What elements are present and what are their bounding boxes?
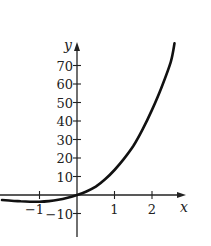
y-tick-label: 40 [56, 114, 73, 129]
y-tick-label: 10 [56, 170, 73, 185]
x-tick-label: 2 [148, 202, 156, 217]
function-curve [2, 43, 175, 201]
y-axis-arrow-icon [74, 42, 80, 51]
y-tick-label: 30 [56, 133, 73, 148]
x-axis-arrow-icon [177, 192, 186, 198]
y-tick-label: 60 [56, 77, 73, 92]
x-axis-label: x [180, 199, 188, 215]
y-tick-label: 70 [56, 59, 73, 74]
y-tick-label: 20 [56, 151, 73, 166]
y-tick-label: 50 [56, 96, 73, 111]
y-axis-label: y [63, 37, 73, 53]
y-tick-label: −10 [46, 207, 73, 222]
function-plot: −112−1010203040506070 x y [0, 0, 211, 246]
x-tick-label: −1 [25, 202, 44, 217]
x-tick-label: 1 [110, 202, 118, 217]
